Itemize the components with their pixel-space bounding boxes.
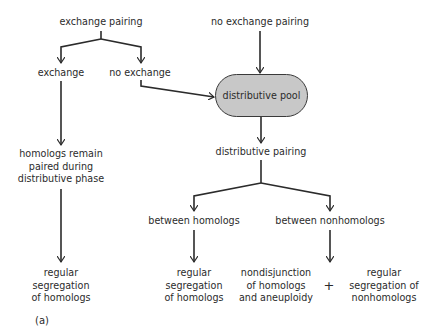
line: nonhomologs xyxy=(349,292,418,305)
node-regular-segregation-middle: regular segregation of homologs xyxy=(164,267,223,305)
line: paired during xyxy=(18,161,104,174)
node-regular-segregation-nonhomologs: regular segregation of nonhomologs xyxy=(349,267,418,305)
node-homologs-remain-paired: homologs remain paired during distributi… xyxy=(18,148,104,186)
distributive-pool-label: distributive pool xyxy=(223,90,301,101)
line: segregation xyxy=(31,280,90,293)
line: regular xyxy=(31,267,90,280)
line: nondisjunction xyxy=(239,267,313,280)
figure-caption: (a) xyxy=(35,315,49,326)
line: segregation xyxy=(164,280,223,293)
line: distributive phase xyxy=(18,173,104,186)
plus-sign: + xyxy=(324,278,335,293)
node-nondisjunction: nondisjunction of homologs and aneuploid… xyxy=(239,267,313,305)
node-no-exchange-pairing: no exchange pairing xyxy=(211,16,309,29)
line: regular xyxy=(164,267,223,280)
node-between-homologs: between homologs xyxy=(148,215,239,228)
line: segregation of xyxy=(349,280,418,293)
line: of homologs xyxy=(239,280,313,293)
line: regular xyxy=(349,267,418,280)
line: of homologs xyxy=(31,292,90,305)
node-distributive-pairing: distributive pairing xyxy=(216,146,307,159)
node-exchange-pairing: exchange pairing xyxy=(59,16,142,29)
node-regular-segregation-left: regular segregation of homologs xyxy=(31,267,90,305)
node-between-nonhomologs: between nonhomologs xyxy=(275,215,384,228)
line: homologs remain xyxy=(18,148,104,161)
line: and aneuploidy xyxy=(239,292,313,305)
line: of homologs xyxy=(164,292,223,305)
node-no-exchange: no exchange xyxy=(109,67,171,80)
node-exchange: exchange xyxy=(38,67,85,80)
node-distributive-pool: distributive pool xyxy=(215,74,308,117)
